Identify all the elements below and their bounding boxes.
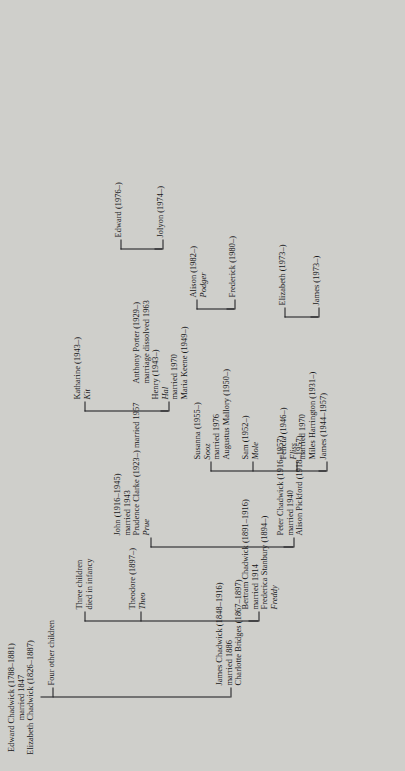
node-four-other-children: Four other children [46,565,56,685]
family-tree-chart: Edward Chadwick (1788–1881) married 1847… [0,0,405,771]
connector-to-edward-1976 [120,239,121,249]
node-spouse: Miles Harrington (1931–) [307,329,317,459]
node-line: James Chadwick (1848–1916) [214,549,224,685]
connector-gen4-peter-span [210,470,326,471]
node-jolyon-1974: Jolyon (1974–) [155,127,165,237]
connector-gen5-henry-span [120,248,162,249]
node-john-second-spouse: Anthony Porter (1929–) marriage dissolve… [131,223,150,383]
page-canvas: Edward Chadwick (1788–1881) married 1847… [0,0,405,771]
node-nickname: Mole [250,349,260,459]
node-line: Edward (1976–) [113,127,123,237]
connector-to-felicia [296,461,297,471]
node-nickname: Kit [82,279,92,399]
connector-to-elizabeth-1973 [284,307,285,317]
node-marriage: married 1970 [169,269,179,399]
connector-to-alison-1982 [196,299,197,309]
node-line: married 1914 [250,463,260,609]
connector-gen2-span [84,620,258,621]
node-line: Anthony Porter (1929–) [131,223,141,383]
connector-gen1-span [52,696,230,697]
node-note: marriage dissolved 1963 [141,223,151,383]
node-nickname: Podger [198,187,208,297]
node-alison-1982: Alison (1982–) Podger [188,187,207,297]
node-nickname: Hal [160,269,170,399]
node-nickname: Sooz [202,324,212,459]
node-line: James (1973–) [311,195,321,305]
node-line: married 1886 [224,549,234,685]
connector-gen1-to-others [52,687,53,697]
node-line: died in infancy [84,489,94,609]
node-susanna: Susanna (1955–) Sooz married 1976 August… [192,324,230,459]
node-james-chadwick-1848: James Chadwick (1848–1916) married 1886 … [214,549,243,685]
node-line: Felicia (1946–) [278,329,288,459]
node-line: Frederica Stanbury (1894–) [259,463,269,609]
node-marriage: married 1976 [211,324,221,459]
node-line: married 1847 [16,631,26,763]
connector-to-jolyon [162,239,163,249]
connector-root-stem [40,696,52,697]
node-sam: Sam (1952–) Mole [240,349,259,459]
connector-gen2-to-theodore [140,611,141,621]
connector-to-henry [168,401,169,411]
node-line: Bertram Chadwick (1891–1916) [240,463,250,609]
connector-gen5-susanna-span [196,308,234,309]
node-frederick-1980: Frederick (1980–) [227,187,237,297]
node-spouse: Maria Keene (1949–) [179,269,189,399]
connector-to-katharine [84,401,85,411]
node-line: Four other children [46,565,56,685]
node-line: Alison (1982–) [188,187,198,297]
node-line: Elizabeth (1973–) [277,195,287,305]
connector-to-susanna [210,461,211,471]
connector-gen4-john-span [84,410,168,411]
connector-gen3-to-john [150,537,151,547]
node-james-1973: James (1973–) [311,195,321,305]
connector-gen2-to-bertram [258,611,259,621]
connector-to-frederick [234,299,235,309]
node-line: John (1916–1945) [112,305,122,535]
node-line: married 1943 [122,305,132,535]
node-elizabeth-1973: Elizabeth (1973–) [277,195,287,305]
node-james-1944: James (1944–1957) [318,349,328,459]
node-line: Three children [74,489,84,609]
node-line: Edward Chadwick (1788–1881) [6,631,16,763]
connector-gen3-span [150,546,293,547]
node-line: Jolyon (1974–) [155,127,165,237]
connector-to-james-1973 [318,307,319,317]
connector-gen3-to-peter [293,537,294,547]
node-line: Susanna (1955–) [192,324,202,459]
node-line: Frederick (1980–) [227,187,237,297]
node-bertram-chadwick: Bertram Chadwick (1891–1916) married 191… [240,463,278,609]
connector-gen1-to-james [230,687,231,697]
node-line: Elizabeth Chadwick (1826–1887) [25,631,35,763]
connector-to-james-1944 [326,461,327,471]
connector-gen5-felicia-span [284,316,318,317]
node-line: Katharine (1943–) [72,279,82,399]
node-nickname: Fliss [288,329,298,459]
node-line: Henry (1943–) [150,269,160,399]
node-line: James (1944–1957) [318,349,328,459]
connector-to-sam [252,461,253,471]
node-marriage: married 1970 [297,329,307,459]
node-felicia: Felicia (1946–) Fliss married 1970 Miles… [278,329,316,459]
connector-gen2-to-infancy [84,611,85,621]
node-edward-chadwick: Edward Chadwick (1788–1881) married 1847… [6,631,35,763]
node-spouse: Augustus Mallory (1950–) [221,324,231,459]
node-edward-1976: Edward (1976–) [113,127,123,237]
node-katharine: Katharine (1943–) Kit [72,279,91,399]
node-henry: Henry (1943–) Hal married 1970 Maria Kee… [150,269,188,399]
node-three-children-infancy: Three children died in infancy [74,489,93,609]
node-line: Sam (1952–) [240,349,250,459]
